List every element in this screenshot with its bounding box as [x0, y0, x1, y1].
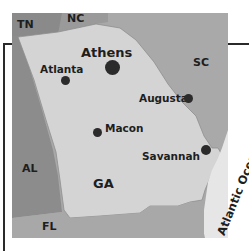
state-label-fl: FL [42, 221, 57, 232]
state-label-ga: GA [93, 177, 114, 190]
city-label-atlanta: Atlanta [40, 64, 83, 75]
state-label-tn: TN [17, 19, 34, 30]
city-label-athens: Athens [81, 46, 132, 59]
city-label-savannah: Savannah [142, 151, 200, 162]
state-label-al: AL [22, 163, 38, 174]
city-marker-macon [93, 128, 102, 137]
city-label-augusta: Augusta [139, 93, 188, 104]
city-marker-atlanta [61, 76, 70, 85]
city-marker-athens [105, 60, 120, 75]
city-label-macon: Macon [105, 123, 143, 134]
state-label-nc: NC [67, 13, 84, 24]
city-marker-augusta [184, 94, 193, 103]
city-marker-savannah [201, 145, 211, 155]
state-label-sc: SC [193, 57, 209, 68]
